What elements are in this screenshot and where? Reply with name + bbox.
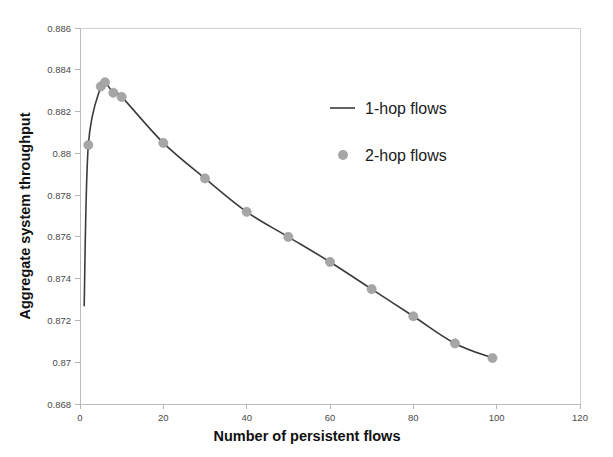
x-tick-label: 120 (572, 412, 588, 423)
data-point-marker (325, 257, 334, 266)
data-point-marker (450, 339, 459, 348)
y-tick-label: 0.872 (47, 315, 71, 326)
x-tick-label: 20 (158, 412, 169, 423)
y-tick-label: 0.874 (47, 273, 71, 284)
chart-background (0, 0, 613, 457)
y-tick-label: 0.88 (53, 148, 72, 159)
y-tick-label: 0.886 (47, 23, 71, 34)
y-axis-title: Aggregate system throughput (17, 112, 33, 319)
legend-dot-swatch (338, 150, 348, 160)
data-point-marker (117, 92, 126, 101)
x-axis-title: Number of persistent flows (214, 428, 401, 444)
legend-label-1-hop: 1-hop flows (365, 100, 447, 117)
x-tick-label: 40 (241, 412, 252, 423)
data-point-marker (242, 207, 251, 216)
data-point-marker (100, 78, 109, 87)
data-point-marker (488, 353, 497, 362)
x-tick-label: 0 (77, 412, 82, 423)
data-point-marker (84, 140, 93, 149)
chart-figure: 020406080100120 0.8680.870.8720.8740.876… (0, 0, 613, 457)
data-point-marker (367, 285, 376, 294)
data-point-marker (159, 138, 168, 147)
y-tick-label: 0.868 (47, 399, 71, 410)
y-tick-label: 0.882 (47, 106, 71, 117)
y-tick-label: 0.876 (47, 231, 71, 242)
legend-label-2-hop: 2-hop flows (365, 147, 447, 164)
x-tick-label: 100 (489, 412, 505, 423)
data-point-marker (109, 88, 118, 97)
data-point-marker (200, 174, 209, 183)
y-tick-label: 0.878 (47, 190, 71, 201)
data-point-marker (409, 312, 418, 321)
x-tick-label: 60 (325, 412, 336, 423)
line-chart: 020406080100120 0.8680.870.8720.8740.876… (0, 0, 613, 457)
y-tick-label: 0.884 (47, 64, 71, 75)
data-point-marker (284, 232, 293, 241)
y-tick-label: 0.87 (53, 357, 72, 368)
x-tick-label: 80 (408, 412, 419, 423)
